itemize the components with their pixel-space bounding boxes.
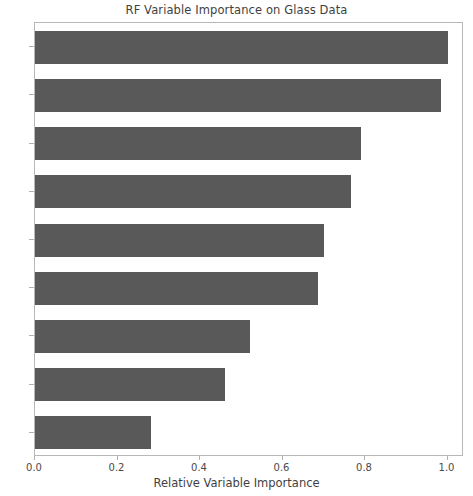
- bar-mg: [35, 31, 448, 64]
- y-tick-mark: [29, 94, 34, 95]
- bar-al: [35, 79, 441, 112]
- chart-title: RF Variable Importance on Glass Data: [0, 3, 473, 17]
- x-tick-label: 1.0: [427, 462, 467, 473]
- x-tick-mark: [117, 456, 118, 460]
- bar-si: [35, 320, 250, 353]
- x-tick-mark: [364, 456, 365, 460]
- bar-ba: [35, 272, 318, 305]
- bar-k: [35, 368, 225, 401]
- y-tick-mark: [29, 432, 34, 433]
- y-tick-mark: [29, 143, 34, 144]
- y-tick-mark: [29, 191, 34, 192]
- x-tick-label: 0.8: [344, 462, 384, 473]
- y-tick-mark: [29, 335, 34, 336]
- x-tick-label: 0.4: [179, 462, 219, 473]
- y-tick-mark: [29, 239, 34, 240]
- x-tick-label: 0.0: [14, 462, 54, 473]
- y-tick-mark: [29, 46, 34, 47]
- x-tick-mark: [34, 456, 35, 460]
- bars-layer: [35, 23, 462, 455]
- bar-fe: [35, 416, 151, 449]
- y-tick-mark: [29, 384, 34, 385]
- x-tick-mark: [199, 456, 200, 460]
- x-tick-mark: [447, 456, 448, 460]
- y-tick-mark: [29, 287, 34, 288]
- plot-area: [34, 22, 463, 456]
- bar-ca: [35, 127, 361, 160]
- x-tick-mark: [282, 456, 283, 460]
- bar-ri: [35, 175, 351, 208]
- x-axis-label: Relative Variable Importance: [0, 476, 473, 490]
- chart-figure: RF Variable Importance on Glass Data MgA…: [0, 0, 473, 496]
- x-tick-label: 0.2: [97, 462, 137, 473]
- bar-na: [35, 224, 324, 257]
- x-tick-label: 0.6: [262, 462, 302, 473]
